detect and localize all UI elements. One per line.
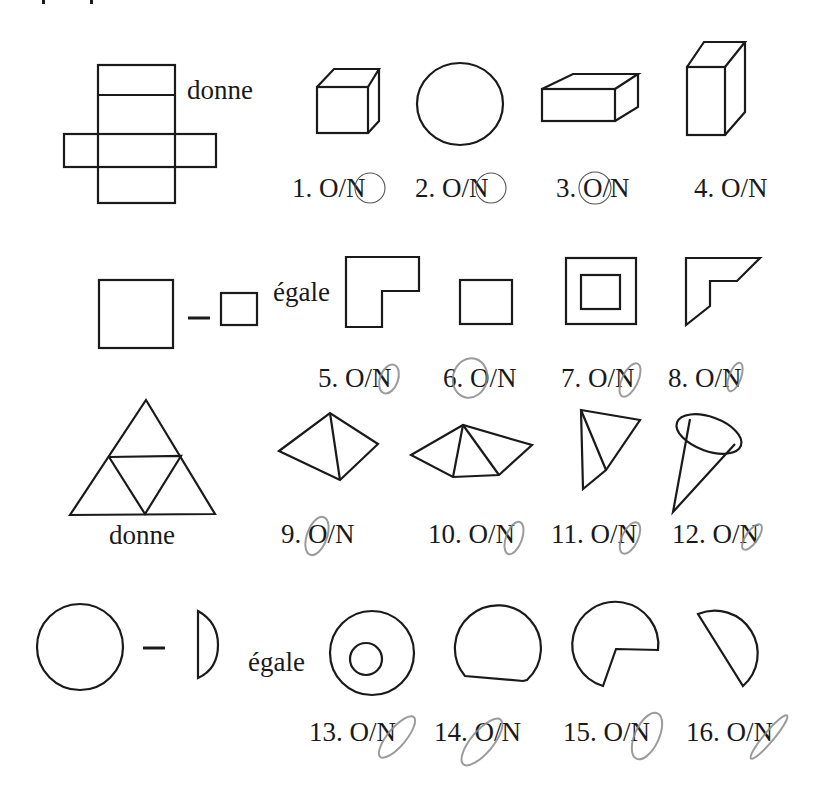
problem-square-minus-square: égale 5. O/N 6. O/N 7. O/N 8. O/N: [99, 257, 760, 402]
triangle-net-figure: [70, 400, 215, 515]
item-10-open-pyramid: [411, 425, 532, 477]
item-2-circle: [417, 63, 503, 145]
item-4-tall-box: [687, 42, 745, 135]
item-4-label: 4. O/N: [694, 173, 768, 203]
item-1-cube: [317, 69, 379, 133]
item-7-square-frame: [566, 258, 636, 324]
item-15-sector-cutout: [572, 602, 658, 686]
item-8-bevelled-L: [686, 258, 760, 325]
item-16-label: 16. O/N: [686, 717, 773, 747]
item-9-label: 9. O/N: [281, 519, 355, 549]
item-3-label: 3. O/N: [556, 173, 630, 203]
item-14-truncated-circle: [455, 605, 541, 681]
item-13-annulus: [330, 611, 414, 695]
circle-figure: [37, 604, 123, 690]
item-2-label: 2. O/N: [415, 173, 489, 203]
item-3-flat-box: [542, 74, 638, 121]
item-11-thin-tetrahedron: [581, 410, 640, 489]
small-square-figure: [221, 293, 257, 325]
item-9-tetrahedron: [279, 413, 378, 480]
cropped-heading-fragment: [42, 0, 93, 4]
item-16-half-disc: [698, 611, 758, 686]
item-6-rectangle: [460, 280, 512, 324]
worksheet-canvas: donne 1. O/N 2. O/N 3. O/N 4. O/N: [0, 0, 818, 805]
item-7-label: 7. O/N: [561, 363, 635, 393]
large-square-figure: [99, 280, 173, 348]
item-8-label: 8. O/N: [668, 363, 742, 393]
given-word-egale: égale: [273, 277, 330, 307]
item-15-label: 15. O/N: [563, 717, 650, 747]
problem-triangle-net: donne 9. O/N 10. O/N 11. O/N 12. O/N: [70, 400, 766, 558]
item-10-label: 10. O/N: [428, 519, 515, 549]
given-word-donne-2: donne: [109, 520, 175, 550]
circular-segment-figure: [198, 611, 218, 678]
given-word-egale-2: égale: [248, 647, 305, 677]
given-word-donne: donne: [187, 75, 253, 105]
item-5-L-shape: [346, 257, 419, 327]
problem-circle-minus-segment: égale 13. O/N 14. O/N 15. O/N 16. O/N: [37, 602, 791, 771]
item-12-cone: [671, 406, 747, 512]
problem-net-cross: donne 1. O/N 2. O/N 3. O/N 4. O/N: [64, 42, 768, 204]
